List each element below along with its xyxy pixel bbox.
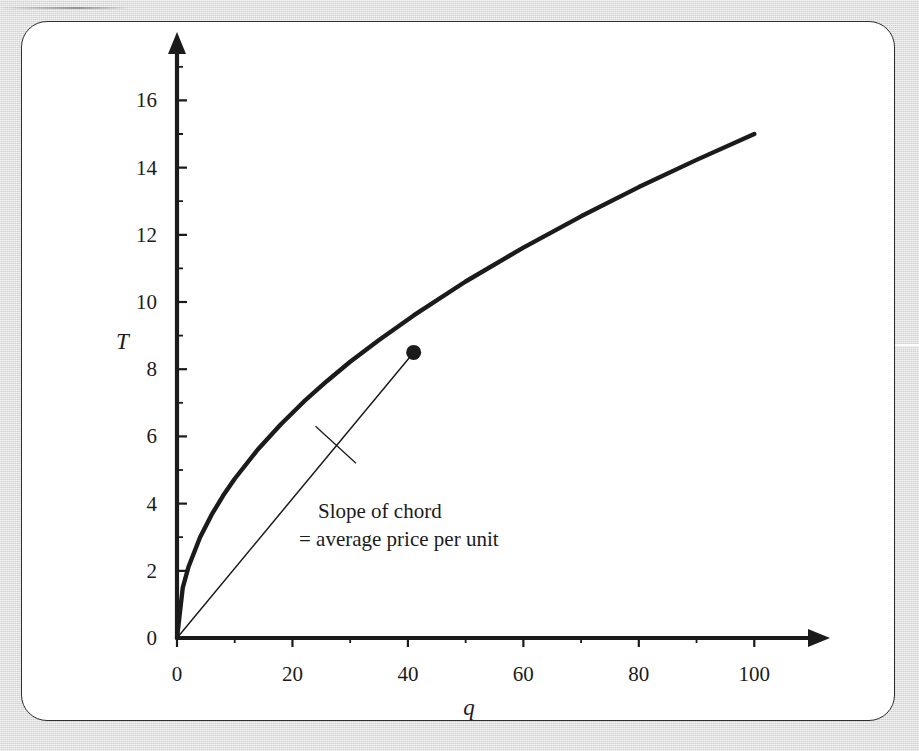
total-outlay-chart: 0204060801000246810121416 T q Slope of c… bbox=[22, 22, 895, 721]
y-tick-label: 2 bbox=[147, 559, 158, 583]
data-points-layer bbox=[406, 345, 421, 360]
x-tick-label: 60 bbox=[513, 662, 534, 686]
y-tick-label: 12 bbox=[136, 223, 157, 247]
scan-artifact-top bbox=[0, 7, 130, 9]
ticks-layer bbox=[177, 67, 754, 647]
x-axis-title: q bbox=[463, 695, 475, 720]
x-tick-label: 20 bbox=[282, 662, 303, 686]
chord-line bbox=[177, 352, 414, 638]
annotation-line-2: = average price per unit bbox=[299, 527, 499, 551]
y-axis-arrowhead bbox=[168, 32, 186, 54]
y-tick-label: 8 bbox=[147, 357, 158, 381]
axes-layer bbox=[168, 32, 830, 647]
y-tick-label: 10 bbox=[136, 290, 157, 314]
tick-labels-layer: 0204060801000246810121416 bbox=[136, 88, 770, 686]
x-tick-label: 100 bbox=[739, 662, 771, 686]
data-series-layer bbox=[177, 134, 754, 638]
x-axis-arrowhead bbox=[808, 629, 830, 647]
y-tick-label: 6 bbox=[147, 424, 158, 448]
y-tick-label: 0 bbox=[147, 626, 158, 650]
x-tick-label: 0 bbox=[172, 662, 183, 686]
y-tick-label: 16 bbox=[136, 88, 157, 112]
annotation-leader-line bbox=[316, 426, 356, 463]
annotation-line-1: Slope of chord bbox=[318, 499, 442, 523]
figure-card: 0204060801000246810121416 T q Slope of c… bbox=[21, 21, 895, 721]
annotation-layer bbox=[316, 426, 356, 463]
x-tick-label: 40 bbox=[397, 662, 418, 686]
y-tick-label: 14 bbox=[136, 156, 158, 180]
x-tick-label: 80 bbox=[628, 662, 649, 686]
chord-endpoint-marker bbox=[406, 345, 421, 360]
outlay-curve bbox=[177, 134, 754, 638]
y-axis-title: T bbox=[116, 329, 131, 354]
y-tick-label: 4 bbox=[147, 492, 158, 516]
